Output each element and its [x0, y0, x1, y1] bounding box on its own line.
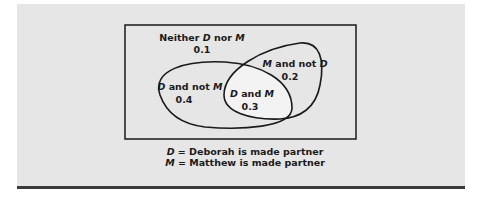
legend-item-m: M = Matthew is made partner	[0, 157, 490, 168]
region-neither-value: 0.1	[194, 44, 211, 55]
venn-diagram: Neither D nor M 0.1 M and not D 0.2 D an…	[0, 0, 490, 200]
legend-item-d: D = Deborah is made partner	[0, 146, 490, 157]
region-both-label: D and M	[230, 88, 274, 99]
region-both-value: 0.3	[242, 101, 259, 112]
legend: D = Deborah is made partner M = Matthew …	[0, 146, 490, 168]
region-d-only-label: D and not M	[157, 81, 223, 92]
bottom-rule	[17, 186, 465, 189]
region-m-only-label: M and not D	[262, 58, 327, 69]
region-d-only-value: 0.4	[176, 94, 193, 105]
region-neither-label: Neither D nor M	[159, 32, 245, 43]
region-m-only-value: 0.2	[282, 71, 299, 82]
